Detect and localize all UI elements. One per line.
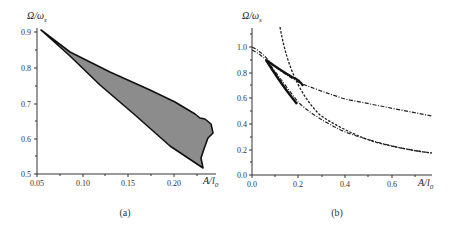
caption-b: (b) — [331, 207, 343, 219]
y-tick-label: 0.7 — [21, 100, 31, 109]
stability-region — [41, 30, 213, 168]
curve-dashdot-lower — [252, 50, 432, 153]
panel-a: 0.5 0.6 0.7 0.8 0.9 0.05 0.10 0.15 0.20 … — [21, 10, 219, 219]
x-axis-label: A/l0 — [202, 175, 219, 189]
y-tick-label: 0.6 — [21, 135, 31, 144]
x-tick-label: 0.20 — [167, 179, 181, 188]
y-tick-label: 0.6 — [237, 94, 247, 103]
panel-b: 0.0 0.2 0.4 0.6 0.8 1.0 0.0 0.2 0.4 0.6 … — [237, 10, 434, 219]
x-tick-label: 0.10 — [76, 179, 90, 188]
y-tick-label: 0.9 — [21, 28, 31, 37]
y-tick-label: 0.5 — [21, 170, 31, 179]
y-tick-label: 0.8 — [237, 69, 247, 78]
x-tick-label: 0.15 — [121, 179, 135, 188]
caption-a: (a) — [119, 207, 130, 219]
x-tick-label: 0.6 — [387, 180, 397, 189]
y-tick-label: 0.4 — [237, 120, 247, 129]
y-tick-label: 0.8 — [21, 64, 31, 73]
curve-solid-lower — [266, 60, 297, 104]
figure: 0.5 0.6 0.7 0.8 0.9 0.05 0.10 0.15 0.20 … — [0, 0, 451, 231]
y-axis-label: Ω/ωs — [27, 10, 47, 24]
x-tick-label: 0.05 — [30, 179, 44, 188]
y-tick-label: 0.2 — [237, 146, 247, 155]
x-axis-label: A/l0 — [417, 177, 434, 191]
x-tick-label: 0.2 — [293, 180, 303, 189]
curve-dashed — [280, 27, 432, 153]
x-tick-label: 0.4 — [340, 180, 350, 189]
y-axis-label: Ω/ωs — [242, 10, 262, 24]
x-tick-label: 0.0 — [247, 180, 257, 189]
y-tick-label: 0.0 — [237, 171, 247, 180]
y-tick-label: 1.0 — [237, 43, 247, 52]
